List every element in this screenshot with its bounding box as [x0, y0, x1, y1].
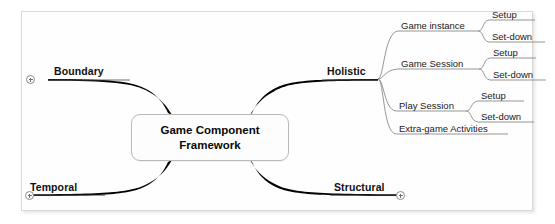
connector-play-session-setdown: [466, 111, 478, 122]
node-label-play-session-setdown[interactable]: Set-down: [481, 112, 521, 122]
node-label-game-instance-setup[interactable]: Setup: [492, 10, 517, 20]
root-node[interactable]: Game Component Framework: [131, 114, 289, 161]
connector-holistic-extra-game: [378, 79, 396, 134]
node-label-game-session-setdown[interactable]: Set-down: [493, 70, 533, 80]
node-label-game-session[interactable]: Game Session: [401, 59, 463, 69]
node-label-extra-game-activities[interactable]: Extra-game Activities: [399, 124, 488, 134]
mindmap-canvas: Game Component Framework Boundary Tempor…: [0, 0, 555, 224]
branch-line-holistic: [250, 79, 378, 115]
branch-label-structural[interactable]: Structural: [334, 182, 385, 193]
connector-game-session-setdown: [479, 69, 490, 80]
expand-plus-icon-temporal[interactable]: [25, 191, 34, 200]
node-label-game-instance-setdown[interactable]: Set-down: [492, 32, 532, 42]
connector-game-instance-setdown: [478, 31, 489, 42]
expand-plus-icon-structural[interactable]: [396, 191, 405, 200]
connector-game-instance-setup: [478, 20, 489, 31]
connector-play-session-setup: [466, 101, 478, 111]
connector-game-session-setup: [479, 58, 490, 69]
node-label-play-session-setup[interactable]: Setup: [481, 91, 506, 101]
root-node-label: Game Component Framework: [160, 123, 259, 152]
branch-line-boundary: [48, 79, 172, 115]
node-label-game-session-setup[interactable]: Setup: [493, 48, 518, 58]
mindmap-connectors: [0, 0, 555, 224]
node-label-game-instance[interactable]: Game instance: [401, 21, 465, 31]
branch-label-holistic[interactable]: Holistic: [327, 66, 366, 77]
node-label-play-session[interactable]: Play Session: [399, 101, 454, 111]
branch-label-temporal[interactable]: Temporal: [30, 182, 77, 193]
expand-plus-icon-boundary[interactable]: [26, 75, 35, 84]
branch-label-boundary[interactable]: Boundary: [54, 66, 104, 77]
